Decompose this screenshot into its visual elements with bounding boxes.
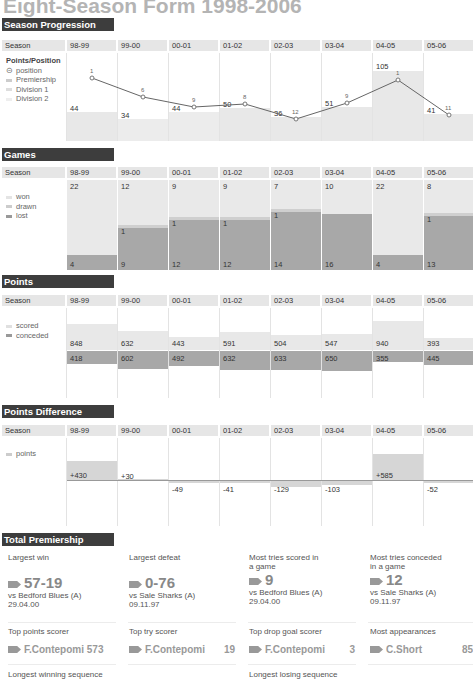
tag-icon	[249, 578, 262, 585]
tag-icon	[370, 578, 383, 585]
conceded-label: 633	[274, 354, 287, 363]
difference-chart: +430 +30 -49 -41 -129 -103 +585 -52 poin…	[0, 438, 473, 526]
season-header: 04-05	[373, 295, 422, 306]
position-label: 8	[243, 94, 246, 100]
record-label: Most tries scored in	[249, 553, 322, 562]
drawn-label: 1	[223, 219, 227, 228]
record-date: 29.04.00	[249, 597, 322, 606]
legend-item-division1: Division 1	[6, 85, 61, 95]
season-header-row: Season 98-99 99-00 00-01 01-02 02-03 03-…	[0, 425, 473, 436]
record-largest-defeat: Largest defeat 0-76 vs Sale Sharks (A) 0…	[129, 553, 195, 609]
tag-icon	[129, 581, 142, 588]
won-label: 12	[121, 182, 129, 191]
season-header: 02-03	[271, 425, 320, 436]
record-most-tries-conceded: Most tries conceded in a game 12 vs Sale…	[370, 553, 442, 606]
diff-bar	[220, 481, 270, 483]
won-label: 7	[274, 182, 278, 191]
diff-label: -41	[223, 485, 234, 494]
lost-bar	[373, 255, 423, 270]
record-value: 12	[386, 571, 403, 588]
record-label: Top drop goal scorer	[249, 627, 322, 636]
legend-item-division2: Division 2	[6, 94, 61, 104]
position-label: 9	[345, 93, 348, 99]
record-opponent: vs Sale Sharks (A)	[129, 591, 195, 600]
won-label: 22	[376, 182, 384, 191]
season-header: 99-00	[118, 40, 167, 51]
section-heading-difference: Points Difference	[2, 405, 114, 418]
record-label: a game	[249, 562, 322, 571]
won-label: 9	[223, 182, 227, 191]
lost-label: 9	[121, 260, 125, 269]
tag-icon	[249, 646, 262, 653]
lost-label: 4	[70, 260, 74, 269]
position-label: 11	[445, 105, 451, 111]
diff-bar	[424, 481, 473, 483]
season-header: 02-03	[271, 295, 320, 306]
season-header: 03-04	[322, 425, 371, 436]
season-header-row: Season 98-99 99-00 00-01 01-02 02-03 03-…	[0, 295, 473, 306]
legend-item-scored: scored	[6, 321, 49, 331]
section-heading-progression: Season Progression	[2, 18, 114, 31]
season-header: 04-05	[373, 425, 422, 436]
season-header: 01-02	[220, 295, 269, 306]
season-label: Season	[2, 425, 65, 436]
season-label: Season	[2, 167, 65, 178]
scored-label: 940	[376, 339, 389, 348]
season-header: 01-02	[220, 167, 269, 178]
season-header: 02-03	[271, 167, 320, 178]
section-heading-record: Total Premiership Record	[2, 533, 114, 546]
legend-item-won: won	[6, 192, 36, 202]
scored-label: 443	[172, 339, 185, 348]
lost-bar	[67, 255, 117, 270]
games-chart: 22 12 9 9 7 10 22 8 1 1 1 1 1 4 9 12 12 …	[0, 180, 473, 270]
record-top-drop: F.Contepomi3	[249, 644, 357, 655]
season-header: 98-99	[67, 295, 116, 306]
conceded-label: 445	[427, 354, 440, 363]
season-header: 00-01	[169, 40, 218, 51]
lost-label: 16	[325, 260, 333, 269]
record-label: Most appearances	[370, 627, 436, 636]
progression-legend: Points/Position ⊝position Premiership Di…	[6, 56, 61, 104]
lost-bar	[118, 228, 168, 270]
season-header: 03-04	[322, 167, 371, 178]
position-label: 12	[292, 109, 299, 115]
scored-label: 504	[274, 339, 287, 348]
record-label: Largest defeat	[129, 553, 195, 562]
legend-item-conceded: conceded	[6, 331, 49, 341]
record-label: Top points scorer	[8, 627, 69, 636]
season-header: 99-00	[118, 295, 167, 306]
conceded-label: 650	[325, 354, 338, 363]
lost-label: 12	[223, 260, 231, 269]
section-heading-points: Points	[2, 275, 114, 288]
lost-label: 4	[376, 260, 380, 269]
diff-label: -129	[274, 485, 289, 494]
drawn-label: 1	[274, 211, 278, 220]
season-label: Season	[2, 295, 65, 306]
season-header: 98-99	[67, 167, 116, 178]
season-header: 04-05	[373, 40, 422, 51]
season-header: 03-04	[322, 295, 371, 306]
won-label: 8	[427, 182, 431, 191]
won-label: 10	[325, 182, 333, 191]
conceded-label: 418	[70, 354, 83, 363]
games-legend: won drawn lost	[6, 192, 36, 221]
record-most-apps: C.Short85	[370, 644, 473, 655]
scored-label: 547	[325, 339, 338, 348]
lost-label: 13	[427, 260, 435, 269]
scored-label: 632	[121, 339, 134, 348]
season-header: 05-06	[424, 40, 473, 51]
tag-icon	[8, 581, 21, 588]
season-header: 05-06	[424, 167, 473, 178]
page-title: Eight-Season Form 1998-2006	[3, 0, 302, 18]
diff-bar	[169, 481, 219, 483]
won-label: 22	[70, 182, 78, 191]
points-chart: 848 632 443 591 504 547 940 393 418 602 …	[0, 308, 473, 398]
legend-item-premiership: Premiership	[6, 75, 61, 85]
season-header: 00-01	[169, 425, 218, 436]
record-label: Top try scorer	[129, 627, 177, 636]
tag-icon	[370, 646, 383, 653]
season-label: Season	[2, 40, 65, 51]
record-value: 9	[265, 571, 273, 588]
season-header: 98-99	[67, 425, 116, 436]
record-date: 09.11.97	[129, 600, 195, 609]
